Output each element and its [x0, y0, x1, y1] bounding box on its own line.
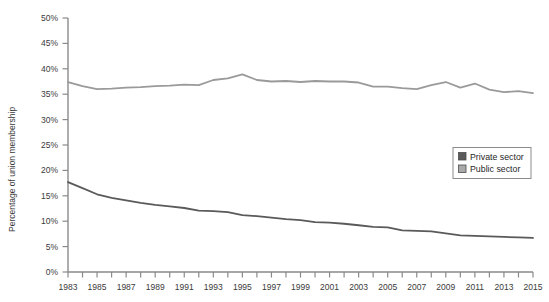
x-tick-label: 2007: [407, 282, 426, 292]
y-tick-label: 20%: [41, 165, 58, 175]
y-tick-label: 45%: [41, 38, 58, 48]
union-membership-chart: Percentage of union membership 0%5%10%15…: [0, 0, 549, 302]
y-tick-label: 5%: [46, 242, 59, 252]
legend-label-public-sector: Public sector: [470, 164, 520, 174]
series-line-public-sector: [68, 74, 533, 93]
x-tick-label: 1999: [291, 282, 310, 292]
y-axis-ticks: 0%5%10%15%20%25%30%35%40%45%50%: [41, 13, 68, 277]
y-tick-label: 25%: [41, 140, 58, 150]
x-tick-label: 1991: [175, 282, 194, 292]
x-tick-label: 2011: [466, 282, 485, 292]
x-tick-label: 2009: [436, 282, 455, 292]
x-tick-label: 2003: [349, 282, 368, 292]
series-line-private-sector: [68, 182, 533, 238]
y-tick-label: 40%: [41, 64, 58, 74]
y-tick-label: 50%: [41, 13, 58, 23]
x-axis-tick-labels: 1983198519871989199119931995199719992001…: [59, 282, 543, 292]
x-tick-label: 1993: [204, 282, 223, 292]
y-tick-label: 10%: [41, 216, 58, 226]
x-tick-label: 1983: [59, 282, 78, 292]
legend-label-private-sector: Private sector: [470, 152, 524, 162]
chart-canvas: Percentage of union membership 0%5%10%15…: [0, 0, 549, 302]
x-tick-label: 2001: [320, 282, 339, 292]
x-tick-label: 1987: [117, 282, 136, 292]
x-axis-ticks: [68, 272, 533, 278]
x-tick-label: 1997: [262, 282, 281, 292]
y-tick-label: 30%: [41, 115, 58, 125]
x-tick-label: 2013: [494, 282, 513, 292]
y-tick-label: 15%: [41, 191, 58, 201]
x-tick-label: 1995: [233, 282, 252, 292]
legend-swatch-private-sector: [459, 153, 467, 161]
legend-swatch-public-sector: [459, 165, 467, 173]
x-tick-label: 1985: [88, 282, 107, 292]
x-tick-label: 2015: [524, 282, 543, 292]
y-tick-label: 35%: [41, 89, 58, 99]
y-axis-title: Percentage of union membership: [7, 107, 17, 232]
chart-legend: Private sector Public sector: [453, 148, 531, 179]
y-tick-label: 0%: [46, 267, 59, 277]
x-tick-label: 1989: [146, 282, 165, 292]
x-tick-label: 2005: [378, 282, 397, 292]
